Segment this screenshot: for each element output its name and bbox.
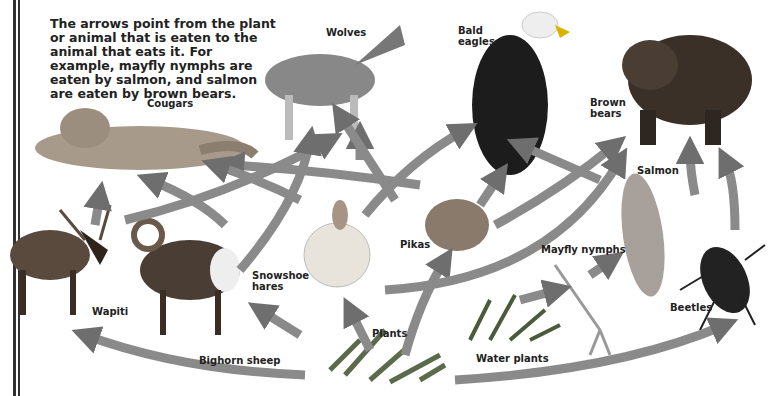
- label-bighorn-sheep: Bighorn sheep: [199, 355, 281, 366]
- label-snowshoe-hares-line2: hares: [252, 281, 284, 292]
- wolf-illustration: [265, 25, 405, 140]
- label-bald-eagles-line1: Bald: [458, 25, 483, 36]
- label-plants: Plants: [372, 328, 407, 339]
- label-brown-bears-line1: Brown: [590, 97, 626, 108]
- mayfly-nymph-illustration: [555, 265, 610, 355]
- label-snowshoe-hares-line1: Snowshoe: [252, 270, 309, 281]
- label-pikas: Pikas: [400, 239, 430, 250]
- brown-bear-illustration: [622, 35, 752, 145]
- label-water-plants: Water plants: [476, 353, 549, 364]
- caption-text: The arrows point from the plant or anima…: [50, 17, 280, 101]
- snowshoe-hare-illustration: [304, 200, 370, 287]
- label-salmon: Salmon: [637, 165, 679, 176]
- label-wolves: Wolves: [326, 27, 366, 38]
- cougar-illustration: [35, 108, 255, 170]
- bighorn-sheep-illustration: [134, 221, 240, 335]
- label-beetles: Beetles: [670, 302, 712, 313]
- label-mayfly-nymphs: Mayfly nymphs: [541, 244, 626, 255]
- pika-illustration: [425, 199, 489, 251]
- salmon-illustration: [615, 171, 672, 299]
- label-brown-bears-line2: bears: [590, 108, 622, 119]
- label-wapiti: Wapiti: [92, 306, 128, 317]
- water-plants-illustration: [470, 295, 560, 340]
- label-cougars: Cougars: [147, 98, 193, 109]
- beetle-illustration: [680, 239, 765, 330]
- label-bald-eagles-line2: eagles: [458, 36, 495, 47]
